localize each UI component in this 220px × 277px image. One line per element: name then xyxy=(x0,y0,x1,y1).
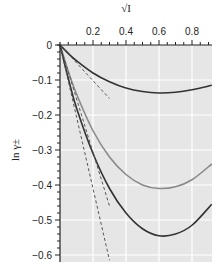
y-tick-label: −0.1 xyxy=(32,75,52,86)
y-tick-label: 0 xyxy=(46,40,52,51)
y-tick-label: −0.6 xyxy=(32,250,52,261)
x-tick-label: 0.8 xyxy=(185,26,199,37)
plot-background xyxy=(60,45,212,262)
x-axis-title: √I xyxy=(121,2,131,14)
x-tick-label: 0.2 xyxy=(86,26,100,37)
x-tick-label: 0.6 xyxy=(152,26,166,37)
y-tick-label: −0.5 xyxy=(32,215,52,226)
y-tick-label: −0.2 xyxy=(32,110,52,121)
y-tick-label: −0.3 xyxy=(32,145,52,156)
activity-coefficient-chart: 0.20.40.60.80−0.1−0.2−0.3−0.4−0.5−0.6 √I… xyxy=(0,0,220,277)
y-axis-title: ln γ± xyxy=(9,139,21,161)
y-tick-label: −0.4 xyxy=(32,180,52,191)
x-tick-label: 0.4 xyxy=(119,26,133,37)
